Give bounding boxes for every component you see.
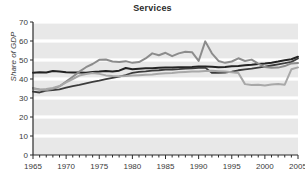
y-tick-label: 0 [24,151,29,160]
x-tick-label: 1975 [90,162,108,171]
plot-canvas: 010203040506070 196519701975198019851990… [0,0,305,185]
y-tick-label: 70 [19,18,28,27]
y-tick-label: 50 [19,56,28,65]
x-tick-label: 1995 [223,162,241,171]
y-tick-label: 40 [19,75,28,84]
y-tick-label: 10 [19,132,28,141]
x-tick-label: 2005 [289,162,305,171]
y-tick-label: 30 [19,94,28,103]
y-axis-ticks: 010203040506070 [19,18,33,160]
y-tick-label: 20 [19,113,28,122]
x-tick-label: 1970 [57,162,75,171]
x-tick-label: 1990 [190,162,208,171]
chart-figure: Services Share of GDP 010203040506070 19… [0,0,305,185]
x-tick-label: 1965 [24,162,42,171]
x-tick-label: 2000 [256,162,274,171]
y-tick-label: 60 [19,37,28,46]
x-tick-label: 1980 [123,162,141,171]
x-axis-ticks: 196519701975198019851990199520002005 [24,155,305,171]
x-tick-label: 1985 [157,162,175,171]
